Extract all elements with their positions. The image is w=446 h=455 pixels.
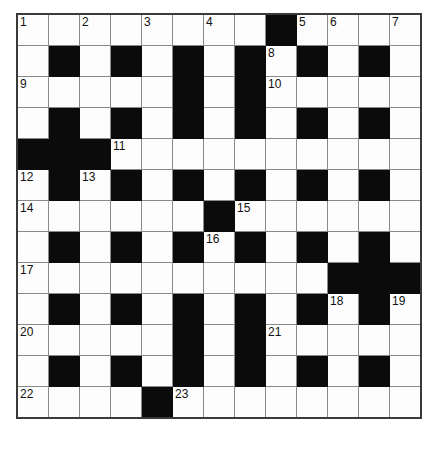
- crossword-cell[interactable]: [49, 325, 80, 356]
- crossword-cell[interactable]: [204, 46, 235, 77]
- crossword-cell[interactable]: 17: [17, 263, 49, 294]
- crossword-cell[interactable]: 20: [17, 325, 49, 356]
- crossword-cell[interactable]: [359, 14, 390, 46]
- crossword-cell[interactable]: 18: [328, 294, 359, 325]
- crossword-cell[interactable]: [80, 387, 111, 419]
- crossword-cell[interactable]: [359, 139, 390, 170]
- crossword-cell[interactable]: [142, 232, 173, 263]
- crossword-cell[interactable]: [142, 356, 173, 387]
- crossword-cell[interactable]: [17, 232, 49, 263]
- crossword-cell[interactable]: 8: [266, 46, 297, 77]
- crossword-cell[interactable]: 16: [204, 232, 235, 263]
- crossword-cell[interactable]: 2: [80, 14, 111, 46]
- crossword-cell[interactable]: [80, 356, 111, 387]
- crossword-cell[interactable]: [142, 170, 173, 201]
- crossword-cell[interactable]: [390, 325, 422, 356]
- crossword-cell[interactable]: [142, 46, 173, 77]
- crossword-cell[interactable]: [111, 387, 142, 419]
- crossword-cell[interactable]: 23: [173, 387, 204, 419]
- crossword-cell[interactable]: [204, 108, 235, 139]
- crossword-cell[interactable]: [297, 201, 328, 232]
- crossword-cell[interactable]: [80, 263, 111, 294]
- crossword-cell[interactable]: [328, 232, 359, 263]
- crossword-cell[interactable]: [266, 294, 297, 325]
- crossword-cell[interactable]: [80, 77, 111, 108]
- crossword-cell[interactable]: [266, 387, 297, 419]
- crossword-cell[interactable]: [142, 108, 173, 139]
- crossword-cell[interactable]: [49, 14, 80, 46]
- crossword-cell[interactable]: [297, 139, 328, 170]
- crossword-cell[interactable]: [297, 77, 328, 108]
- crossword-cell[interactable]: [80, 232, 111, 263]
- crossword-cell[interactable]: [17, 294, 49, 325]
- crossword-cell[interactable]: 13: [80, 170, 111, 201]
- crossword-cell[interactable]: [390, 356, 422, 387]
- crossword-cell[interactable]: [142, 201, 173, 232]
- crossword-cell[interactable]: [49, 77, 80, 108]
- crossword-cell[interactable]: [266, 263, 297, 294]
- crossword-cell[interactable]: [297, 325, 328, 356]
- crossword-cell[interactable]: [49, 387, 80, 419]
- crossword-cell[interactable]: 9: [17, 77, 49, 108]
- crossword-cell[interactable]: [235, 263, 266, 294]
- crossword-cell[interactable]: [142, 139, 173, 170]
- crossword-grid[interactable]: 1234567891011121314151617181920212223: [16, 13, 422, 419]
- crossword-cell[interactable]: [390, 77, 422, 108]
- crossword-cell[interactable]: [80, 46, 111, 77]
- crossword-cell[interactable]: [173, 139, 204, 170]
- crossword-cell[interactable]: [111, 325, 142, 356]
- crossword-cell[interactable]: [359, 325, 390, 356]
- crossword-cell[interactable]: [173, 201, 204, 232]
- crossword-cell[interactable]: 4: [204, 14, 235, 46]
- crossword-cell[interactable]: [142, 325, 173, 356]
- crossword-cell[interactable]: [49, 201, 80, 232]
- crossword-cell[interactable]: 1: [17, 14, 49, 46]
- crossword-cell[interactable]: [328, 77, 359, 108]
- crossword-cell[interactable]: [111, 263, 142, 294]
- crossword-cell[interactable]: [80, 294, 111, 325]
- crossword-cell[interactable]: [390, 46, 422, 77]
- crossword-cell[interactable]: [328, 387, 359, 419]
- crossword-cell[interactable]: 12: [17, 170, 49, 201]
- crossword-cell[interactable]: [390, 201, 422, 232]
- crossword-cell[interactable]: [266, 108, 297, 139]
- crossword-cell[interactable]: [266, 139, 297, 170]
- crossword-cell[interactable]: [328, 356, 359, 387]
- crossword-cell[interactable]: 21: [266, 325, 297, 356]
- crossword-cell[interactable]: [328, 170, 359, 201]
- crossword-cell[interactable]: [297, 387, 328, 419]
- crossword-cell[interactable]: [80, 325, 111, 356]
- crossword-cell[interactable]: [173, 263, 204, 294]
- crossword-cell[interactable]: [142, 294, 173, 325]
- crossword-cell[interactable]: [390, 170, 422, 201]
- crossword-cell[interactable]: [266, 356, 297, 387]
- crossword-cell[interactable]: [328, 325, 359, 356]
- crossword-cell[interactable]: [204, 170, 235, 201]
- crossword-cell[interactable]: 7: [390, 14, 422, 46]
- crossword-cell[interactable]: [142, 263, 173, 294]
- crossword-cell[interactable]: [204, 294, 235, 325]
- crossword-cell[interactable]: [204, 387, 235, 419]
- crossword-cell[interactable]: 6: [328, 14, 359, 46]
- crossword-cell[interactable]: 10: [266, 77, 297, 108]
- crossword-cell[interactable]: [111, 14, 142, 46]
- crossword-cell[interactable]: [17, 356, 49, 387]
- crossword-cell[interactable]: [17, 108, 49, 139]
- crossword-cell[interactable]: [359, 387, 390, 419]
- crossword-cell[interactable]: [204, 356, 235, 387]
- crossword-cell[interactable]: [390, 108, 422, 139]
- crossword-cell[interactable]: [266, 170, 297, 201]
- crossword-cell[interactable]: [142, 77, 173, 108]
- crossword-cell[interactable]: [204, 325, 235, 356]
- crossword-cell[interactable]: 15: [235, 201, 266, 232]
- crossword-cell[interactable]: 5: [297, 14, 328, 46]
- crossword-cell[interactable]: [111, 201, 142, 232]
- crossword-cell[interactable]: [390, 232, 422, 263]
- crossword-cell[interactable]: [235, 139, 266, 170]
- crossword-cell[interactable]: 3: [142, 14, 173, 46]
- crossword-cell[interactable]: 11: [111, 139, 142, 170]
- crossword-cell[interactable]: 14: [17, 201, 49, 232]
- crossword-cell[interactable]: [204, 263, 235, 294]
- crossword-cell[interactable]: [359, 201, 390, 232]
- crossword-cell[interactable]: [173, 14, 204, 46]
